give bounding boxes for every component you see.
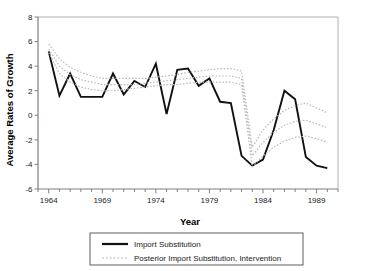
x-tick-label: 1974 xyxy=(147,196,165,205)
series-line-2 xyxy=(49,44,328,147)
plot-frame xyxy=(38,17,338,189)
y-tick-label: -6 xyxy=(25,185,33,194)
y-tick-label: 2 xyxy=(28,87,33,96)
x-tick-label: 1969 xyxy=(93,196,111,205)
y-tick-label: 4 xyxy=(28,62,33,71)
legend-label-1: Import Substitution xyxy=(134,240,201,249)
y-tick-label: -4 xyxy=(25,160,33,169)
x-tick-label: 1979 xyxy=(201,196,219,205)
chart-legend: Import SubstitutionPosterior Import Subs… xyxy=(90,233,303,265)
series-lines xyxy=(49,44,328,168)
series-line-3 xyxy=(49,49,328,156)
x-axis-label: Year xyxy=(180,216,200,227)
x-tick-label: 1984 xyxy=(254,196,272,205)
x-axis-ticks: 196419691974197919841989 xyxy=(38,189,338,205)
y-tick-label: 6 xyxy=(28,37,33,46)
x-tick-label: 1989 xyxy=(308,196,326,205)
y-axis-label: Average Rates of Growth xyxy=(4,53,15,166)
chart-figure: 86420-2-4-6 196419691974197919841989 Ave… xyxy=(0,0,375,271)
y-tick-label: -2 xyxy=(25,136,33,145)
legend-label-2: Posterior Import Substitution, Intervent… xyxy=(134,254,281,263)
line-chart: 86420-2-4-6 196419691974197919841989 Ave… xyxy=(0,0,375,271)
y-tick-label: 0 xyxy=(28,111,33,120)
y-tick-label: 8 xyxy=(28,13,33,22)
plot-border xyxy=(38,17,338,189)
y-axis-ticks: 86420-2-4-6 xyxy=(25,13,38,194)
x-tick-label: 1964 xyxy=(40,196,58,205)
